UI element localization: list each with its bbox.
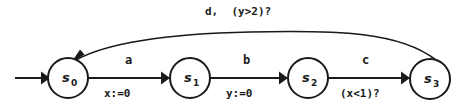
state-s2: s 2 xyxy=(288,58,328,98)
state-s1-label: s xyxy=(184,70,192,85)
state-s0: s 0 xyxy=(48,58,88,98)
state-s0-label: s xyxy=(62,70,70,85)
state-s2-label: s xyxy=(302,70,310,85)
feedback-transition-label: d, (y>2)? xyxy=(205,6,271,18)
state-diagram: s 0 s 1 s 2 s 3 d, (y>2)? a x:=0 b y:=0 … xyxy=(0,0,467,112)
transition-c-guard-label: (x<1)? xyxy=(340,88,380,100)
state-s0-subscript: 0 xyxy=(71,78,77,88)
transition-a-assignment-label: x:=0 xyxy=(104,88,131,100)
transition-s0-s1 xyxy=(88,72,170,85)
transition-a-action-label: a xyxy=(125,54,132,66)
state-s2-subscript: 2 xyxy=(311,78,317,88)
transition-s2-s3 xyxy=(328,72,410,85)
transition-b-action-label: b xyxy=(243,54,250,66)
state-s3: s 3 xyxy=(410,59,450,99)
state-s3-label: s xyxy=(424,71,432,86)
transition-b-assignment-label: y:=0 xyxy=(226,88,253,100)
state-s1: s 1 xyxy=(170,58,210,98)
initial-arrow xyxy=(15,72,50,85)
state-s3-subscript: 3 xyxy=(433,79,439,89)
state-s1-subscript: 1 xyxy=(193,78,199,88)
transition-s1-s2 xyxy=(210,72,288,85)
transition-c-action-label: c xyxy=(362,54,369,66)
